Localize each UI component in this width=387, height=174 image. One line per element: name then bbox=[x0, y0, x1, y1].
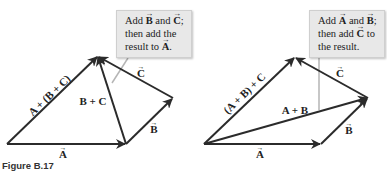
right-callout-line3: the result. bbox=[318, 40, 379, 53]
svg-text:A + B: A + B bbox=[282, 104, 309, 116]
left-callout-line1: Add B and C; bbox=[125, 14, 186, 27]
left-label-a: A → bbox=[59, 144, 67, 160]
svg-text:→: → bbox=[337, 63, 344, 71]
callout-text: result to bbox=[125, 41, 162, 52]
right-callout-line1: Add A and B; bbox=[318, 14, 379, 27]
right-callout-line2: then add C to bbox=[318, 27, 379, 40]
left-callout-pointer bbox=[112, 58, 128, 83]
callout-text: and bbox=[153, 15, 173, 26]
left-label-c: C → bbox=[137, 63, 145, 79]
left-label-b: B → bbox=[150, 119, 158, 135]
left-callout: Add B and C; then add the result to A. bbox=[116, 10, 192, 58]
callout-vector-c: C bbox=[173, 14, 181, 27]
callout-vector-c: C bbox=[357, 27, 365, 40]
figure-caption: Figure B.17 bbox=[2, 160, 54, 171]
right-label-resultant: (A + B) + C bbox=[221, 70, 269, 117]
right-vector-c bbox=[296, 58, 368, 98]
svg-text:→: → bbox=[60, 144, 67, 152]
callout-vector-a: A bbox=[162, 40, 170, 53]
callout-vector-a: A bbox=[339, 14, 347, 27]
left-label-b-plus-c: B + C bbox=[79, 95, 106, 107]
left-label-resultant: A + (B + C) bbox=[26, 72, 74, 119]
callout-text: to bbox=[364, 28, 375, 39]
right-label-b: B → bbox=[345, 120, 353, 136]
svg-text:(A + B) + C: (A + B) + C bbox=[221, 70, 269, 117]
right-label-c: C → bbox=[336, 63, 344, 79]
left-vector-b bbox=[126, 99, 172, 144]
svg-text:→: → bbox=[151, 119, 158, 127]
right-label-a: A → bbox=[256, 144, 264, 160]
callout-text: then add bbox=[318, 28, 357, 39]
callout-text: ; bbox=[181, 15, 184, 26]
svg-text:→: → bbox=[257, 144, 264, 152]
right-vector-b bbox=[321, 99, 367, 144]
callout-text: . bbox=[169, 41, 172, 52]
svg-text:B + C: B + C bbox=[79, 95, 106, 107]
left-callout-line2: then add the bbox=[125, 27, 186, 40]
right-callout: Add A and B; then add C to the result. bbox=[309, 10, 385, 58]
svg-text:→: → bbox=[346, 120, 353, 128]
right-label-a-plus-b: A + B bbox=[282, 104, 309, 116]
callout-text: Add bbox=[125, 15, 146, 26]
callout-vector-b: B bbox=[146, 14, 153, 27]
callout-text: Add bbox=[318, 15, 339, 26]
svg-text:A + (B + C): A + (B + C) bbox=[26, 72, 74, 119]
left-callout-line3: result to A. bbox=[125, 40, 186, 53]
callout-vector-b: B bbox=[367, 14, 374, 27]
svg-text:→: → bbox=[138, 63, 145, 71]
